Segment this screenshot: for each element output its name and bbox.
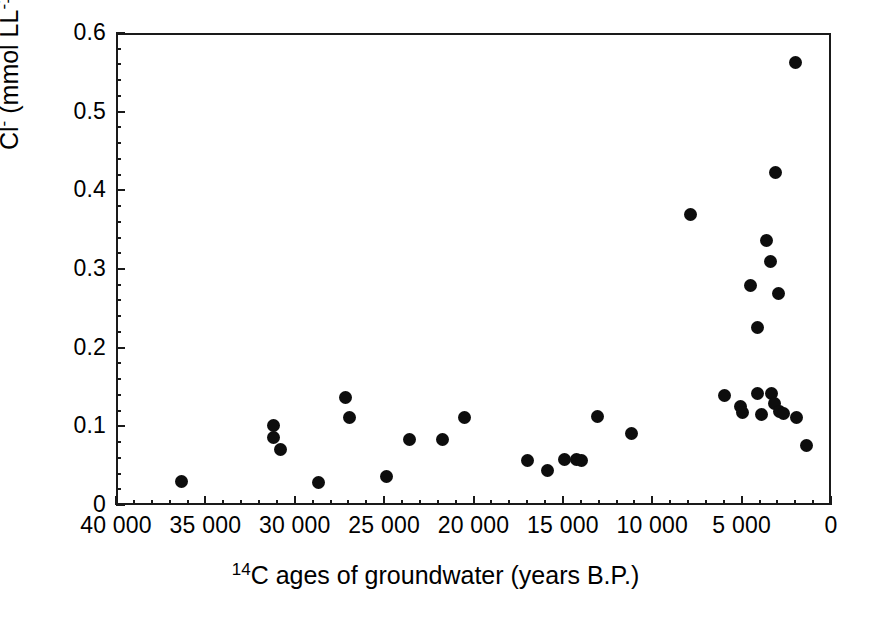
y-axis-minor-tick	[116, 410, 121, 412]
y-axis-minor-tick	[116, 378, 121, 380]
data-point	[684, 208, 697, 221]
y-axis-minor-tick	[116, 299, 121, 301]
y-axis-minor-tick	[116, 221, 121, 223]
x-axis-minor-tick	[687, 500, 689, 505]
x-axis-minor-tick	[616, 500, 618, 505]
y-axis-minor-tick	[116, 441, 121, 443]
y-axis-tick-label: 0.4	[0, 178, 106, 201]
plot-area	[116, 33, 831, 505]
data-point	[436, 433, 449, 446]
x-axis-minor-tick	[598, 500, 600, 505]
x-axis-minor-tick	[365, 500, 367, 505]
y-axis-minor-tick	[116, 48, 121, 50]
x-axis-tick-label: 0	[756, 514, 871, 537]
x-axis-minor-tick	[544, 500, 546, 505]
x-axis-tick	[741, 496, 743, 505]
x-axis-minor-tick	[455, 500, 457, 505]
x-axis-tick	[473, 496, 475, 505]
data-point	[744, 279, 757, 292]
x-axis-minor-tick	[705, 500, 707, 505]
x-axis-tick	[115, 496, 117, 505]
x-axis-title-text: C ages of groundwater (years B.P.)	[251, 561, 640, 589]
y-axis-minor-tick	[116, 63, 121, 65]
x-axis-minor-tick	[776, 500, 778, 505]
y-axis-minor-tick	[116, 394, 121, 396]
x-axis-minor-tick	[312, 500, 314, 505]
data-point	[343, 411, 356, 424]
x-axis-tick	[562, 496, 564, 505]
chart-figure: Cl- (mmol LL-1) 14C ages of groundwater …	[0, 0, 871, 631]
x-axis-minor-tick	[669, 500, 671, 505]
y-axis-tick-label: 0.6	[0, 21, 106, 44]
y-axis-minor-tick	[116, 457, 121, 459]
x-axis-minor-tick	[330, 500, 332, 505]
data-point	[751, 321, 764, 334]
data-point	[339, 391, 352, 404]
data-point	[790, 411, 803, 424]
y-axis-minor-tick	[116, 252, 121, 254]
data-point	[777, 407, 790, 420]
y-axis-tick	[116, 32, 125, 34]
x-axis-minor-tick	[151, 500, 153, 505]
y-axis-tick	[116, 268, 125, 270]
data-point	[755, 408, 768, 421]
x-axis-tick	[651, 496, 653, 505]
x-axis-minor-tick	[490, 500, 492, 505]
data-point	[764, 255, 777, 268]
y-axis-tick-label: 0.1	[0, 414, 106, 437]
y-axis-minor-tick	[116, 79, 121, 81]
data-point	[541, 464, 554, 477]
x-axis-minor-tick	[633, 500, 635, 505]
y-axis-title-species: Cl	[0, 126, 23, 150]
data-point	[769, 166, 782, 179]
y-axis-tick-label: 0.5	[0, 100, 106, 123]
x-axis-minor-tick	[276, 500, 278, 505]
x-axis-minor-tick	[222, 500, 224, 505]
y-axis-minor-tick	[116, 126, 121, 128]
y-axis-minor-tick	[116, 362, 121, 364]
x-axis-minor-tick	[580, 500, 582, 505]
y-axis-minor-tick	[116, 205, 121, 207]
y-axis-minor-tick	[116, 237, 121, 239]
y-axis-minor-tick	[116, 142, 121, 144]
y-axis-tick	[116, 504, 125, 506]
scatter-points-layer	[118, 35, 829, 503]
x-axis-title-isotope: 14	[232, 560, 251, 579]
data-point	[312, 476, 325, 489]
x-axis-minor-tick	[437, 500, 439, 505]
y-axis-tick	[116, 189, 125, 191]
data-point	[274, 443, 287, 456]
x-axis-minor-tick	[187, 500, 189, 505]
y-axis-minor-tick	[116, 473, 121, 475]
x-axis-tick	[383, 496, 385, 505]
x-axis-minor-tick	[258, 500, 260, 505]
y-axis-minor-tick	[116, 331, 121, 333]
x-axis-tick	[204, 496, 206, 505]
y-axis-minor-tick	[116, 488, 121, 490]
y-axis-minor-tick	[116, 158, 121, 160]
y-axis-tick	[116, 111, 125, 113]
data-point	[521, 454, 534, 467]
data-point	[575, 454, 588, 467]
x-axis-minor-tick	[133, 500, 135, 505]
y-axis-tick-label: 0.3	[0, 257, 106, 280]
x-axis-minor-tick	[419, 500, 421, 505]
y-axis-tick-label: 0.2	[0, 336, 106, 359]
x-axis-minor-tick	[812, 500, 814, 505]
x-axis-minor-tick	[508, 500, 510, 505]
x-axis-tick	[830, 496, 832, 505]
y-axis-title-exponent: -1	[0, 0, 13, 10]
x-axis-minor-tick	[723, 500, 725, 505]
y-axis-minor-tick	[116, 284, 121, 286]
data-point	[458, 411, 471, 424]
data-point	[380, 470, 393, 483]
data-point	[789, 56, 802, 69]
y-axis-tick	[116, 425, 125, 427]
x-axis-minor-tick	[759, 500, 761, 505]
data-point	[625, 427, 638, 440]
x-axis-minor-tick	[240, 500, 242, 505]
data-point	[718, 389, 731, 402]
data-point	[175, 475, 188, 488]
data-point	[736, 406, 749, 419]
x-axis-tick	[294, 496, 296, 505]
